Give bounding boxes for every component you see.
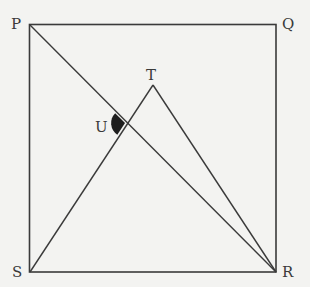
label-t: T [146, 66, 156, 84]
label-s: S [12, 263, 22, 281]
segment-st [30, 85, 153, 272]
label-q: Q [282, 15, 294, 33]
segment-tr [153, 85, 276, 272]
label-p: P [11, 15, 21, 33]
label-u: U [95, 118, 108, 136]
diagonal-pr [30, 25, 277, 273]
label-r: R [282, 263, 294, 281]
geometry-diagram: P Q T U S R [0, 0, 310, 287]
